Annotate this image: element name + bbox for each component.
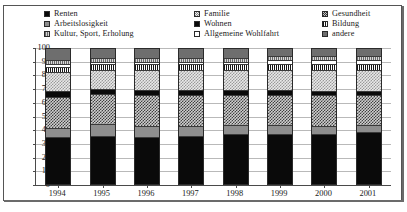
legend-label: Allgemeine Wohlfahrt	[204, 29, 279, 39]
legend-swatch-icon	[194, 11, 200, 17]
x-axis-label: 2001	[346, 188, 390, 200]
bar-segment[interactable]	[224, 71, 248, 91]
x-axis-label: 1994	[35, 188, 79, 200]
x-axis-labels: 19941995199619971998199920002001	[35, 188, 390, 200]
bar-segment[interactable]	[312, 135, 336, 184]
stacked-bar[interactable]	[223, 48, 249, 185]
stacked-bar[interactable]	[90, 48, 116, 185]
bar-segment[interactable]	[357, 133, 381, 184]
legend-swatch-icon	[44, 31, 50, 37]
legend-swatch-icon	[194, 31, 200, 37]
legend-label: Wohnen	[204, 19, 232, 29]
bar-segment[interactable]	[179, 49, 203, 58]
bar-segment[interactable]	[312, 96, 336, 127]
legend-item: Arbeitslosigkeit	[44, 19, 194, 29]
bar-slot	[258, 48, 302, 185]
bar-segment[interactable]	[179, 137, 203, 184]
bar-segment[interactable]	[224, 126, 248, 135]
figure-frame-shadow-bottom	[4, 200, 404, 202]
legend-swatch-icon	[322, 11, 328, 17]
legend-item: Kultur, Sport, Erholung	[44, 29, 194, 39]
legend-item: andere	[322, 29, 407, 39]
bar-segment[interactable]	[224, 96, 248, 126]
plot-area: 0102030405060708090100	[35, 48, 391, 186]
legend-item: Familie	[194, 9, 322, 19]
x-axis-label: 1996	[124, 188, 168, 200]
stacked-bar[interactable]	[356, 48, 382, 185]
legend-item: Gesundheit	[322, 9, 407, 19]
bar-segment[interactable]	[91, 125, 115, 137]
bar-segment[interactable]	[312, 71, 336, 93]
bar-segment[interactable]	[135, 49, 159, 58]
stacked-bar[interactable]	[311, 48, 337, 185]
legend-swatch-icon	[44, 21, 50, 27]
bar-slot	[36, 48, 80, 185]
legend-item: Allgemeine Wohlfahrt	[194, 29, 322, 39]
bar-segment[interactable]	[312, 49, 336, 57]
bar-segment[interactable]	[357, 96, 381, 126]
stacked-bar[interactable]	[267, 48, 293, 185]
bar-segment[interactable]	[46, 98, 70, 129]
chart-legend: RentenFamilieGesundheitArbeitslosigkeitW…	[9, 9, 396, 39]
bar-segment[interactable]	[91, 137, 115, 184]
legend-label: Bildung	[332, 19, 359, 29]
bar-segment[interactable]	[135, 71, 159, 91]
legend-label: Familie	[204, 9, 230, 19]
bar-segment[interactable]	[46, 73, 70, 92]
stacked-bar[interactable]	[178, 48, 204, 185]
bar-segment[interactable]	[268, 96, 292, 126]
bar-segment[interactable]	[135, 127, 159, 138]
bar-segment[interactable]	[91, 71, 115, 90]
bar-slot	[302, 48, 346, 185]
x-axis-label: 2000	[301, 188, 345, 200]
legend-item: Bildung	[322, 19, 407, 29]
bar-slot	[125, 48, 169, 185]
bar-segment[interactable]	[224, 135, 248, 184]
legend-swatch-icon	[44, 11, 50, 17]
bar-segment[interactable]	[179, 71, 203, 91]
stacked-bar[interactable]	[134, 48, 160, 185]
bar-segment[interactable]	[268, 71, 292, 91]
bar-segment[interactable]	[91, 49, 115, 58]
bar-segment[interactable]	[46, 129, 70, 138]
bar-segment[interactable]	[357, 126, 381, 133]
bar-segment[interactable]	[91, 95, 115, 125]
legend-label: Gesundheit	[332, 9, 370, 19]
legend-label: Arbeitslosigkeit	[54, 19, 108, 29]
bar-slot	[80, 48, 124, 185]
bar-slot	[347, 48, 391, 185]
bar-slot	[214, 48, 258, 185]
bar-segment[interactable]	[224, 49, 248, 58]
bar-segment[interactable]	[135, 138, 159, 184]
bar-segment[interactable]	[46, 138, 70, 184]
legend-label: Renten	[54, 9, 78, 19]
bar-segment[interactable]	[179, 127, 203, 136]
bar-segment[interactable]	[357, 49, 381, 57]
legend-label: andere	[332, 29, 354, 39]
x-axis-label: 1997	[168, 188, 212, 200]
legend-item: Wohnen	[194, 19, 322, 29]
bar-segment[interactable]	[268, 49, 292, 57]
bar-segment[interactable]	[312, 127, 336, 135]
legend-label: Kultur, Sport, Erholung	[54, 29, 134, 39]
x-axis-label: 1998	[213, 188, 257, 200]
x-axis-label: 1995	[79, 188, 123, 200]
chart-figure: RentenFamilieGesundheitArbeitslosigkeitW…	[0, 0, 407, 212]
bar-segment[interactable]	[135, 96, 159, 127]
bar-segment[interactable]	[46, 49, 70, 61]
bar-segment[interactable]	[179, 96, 203, 127]
legend-swatch-icon	[322, 21, 328, 27]
bar-group	[36, 48, 391, 185]
bar-segment[interactable]	[268, 126, 292, 135]
legend-swatch-icon	[194, 21, 200, 27]
stacked-bar[interactable]	[45, 48, 71, 185]
x-axis-label: 1999	[257, 188, 301, 200]
bar-segment[interactable]	[268, 135, 292, 184]
legend-swatch-icon	[322, 31, 328, 37]
bar-slot	[169, 48, 213, 185]
legend-item: Renten	[44, 9, 194, 19]
bar-segment[interactable]	[357, 71, 381, 93]
